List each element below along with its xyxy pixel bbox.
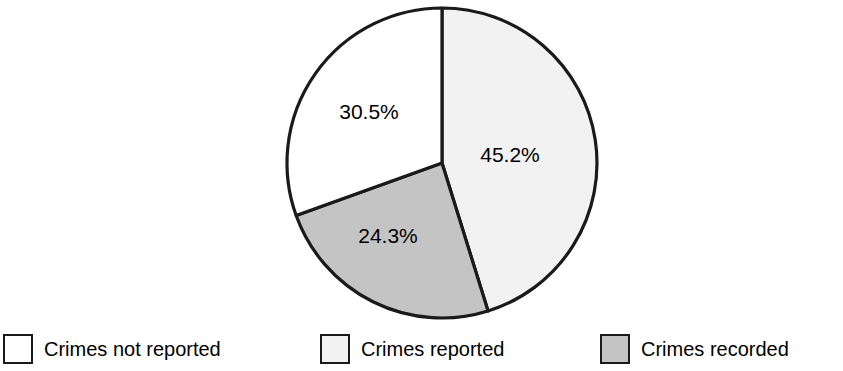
- legend-swatch-crimes-recorded: [600, 334, 630, 364]
- legend-swatch-crimes-reported: [320, 334, 350, 364]
- legend-swatch-crimes-not-reported: [3, 334, 33, 364]
- legend-item-crimes-reported[interactable]: Crimes reported: [320, 326, 504, 371]
- pie-label-crimes-recorded: 24.3%: [358, 224, 418, 247]
- pie-chart-svg: 45.2% 24.3% 30.5%: [0, 0, 843, 322]
- legend-item-crimes-recorded[interactable]: Crimes recorded: [600, 326, 789, 371]
- pie-chart-figure: 45.2% 24.3% 30.5% Crimes not reported Cr…: [0, 0, 843, 371]
- chart-legend: Crimes not reported Crimes reported Crim…: [0, 326, 843, 371]
- legend-label-crimes-recorded: Crimes recorded: [641, 339, 789, 359]
- legend-label-crimes-not-reported: Crimes not reported: [44, 339, 221, 359]
- legend-item-crimes-not-reported[interactable]: Crimes not reported: [3, 326, 221, 371]
- pie-label-crimes-reported: 45.2%: [480, 143, 540, 166]
- legend-label-crimes-reported: Crimes reported: [361, 339, 504, 359]
- pie-chart-plot-area: 45.2% 24.3% 30.5%: [0, 0, 843, 322]
- pie-label-crimes-not-reported: 30.5%: [339, 100, 399, 123]
